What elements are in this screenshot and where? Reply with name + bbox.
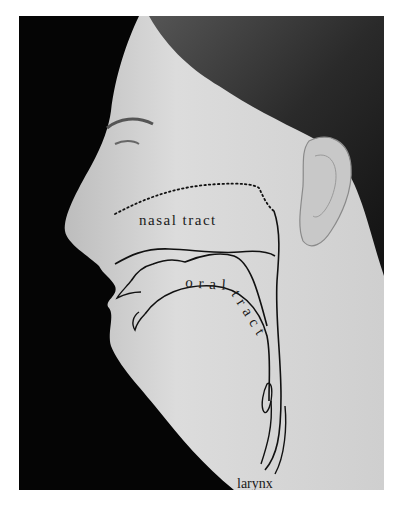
label-nasal-tract: nasal tract	[139, 212, 217, 228]
label-oral: o r a l	[185, 274, 228, 293]
figure-canvas: nasal tract o r a l t r a c t larynx	[19, 16, 384, 490]
label-larynx: larynx	[237, 476, 273, 490]
vocal-tract-figure: nasal tract o r a l t r a c t larynx	[19, 16, 384, 490]
